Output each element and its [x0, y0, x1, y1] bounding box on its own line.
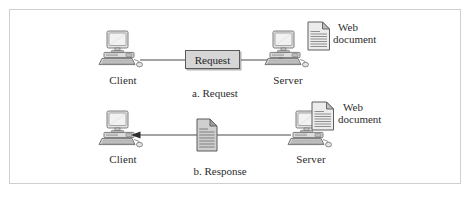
request-message-label: Request	[195, 54, 230, 66]
response-document-icon	[196, 118, 218, 152]
server-label-b: Server	[288, 153, 334, 165]
client-label-a: Client	[100, 74, 146, 86]
server-label-a: Server	[265, 74, 311, 86]
web-document-icon-b	[311, 101, 335, 131]
web-document-label-a-line2: document	[333, 33, 376, 46]
caption-part-b: b. Response	[150, 165, 290, 177]
connector-client-to-request	[140, 55, 186, 65]
server-computer-icon-a	[264, 30, 312, 70]
web-document-label-a-line1: Web	[338, 21, 358, 34]
web-document-icon-a	[307, 21, 331, 51]
client-computer-icon-a	[98, 30, 146, 70]
figure-root: Client Request Server	[0, 0, 473, 197]
client-label-b: Client	[100, 153, 146, 165]
request-message-box[interactable]: Request	[185, 50, 240, 69]
web-document-label-b-line1: Web	[343, 101, 363, 114]
web-document-label-b-line2: document	[338, 113, 381, 126]
caption-part-a: a. Request	[150, 87, 280, 99]
